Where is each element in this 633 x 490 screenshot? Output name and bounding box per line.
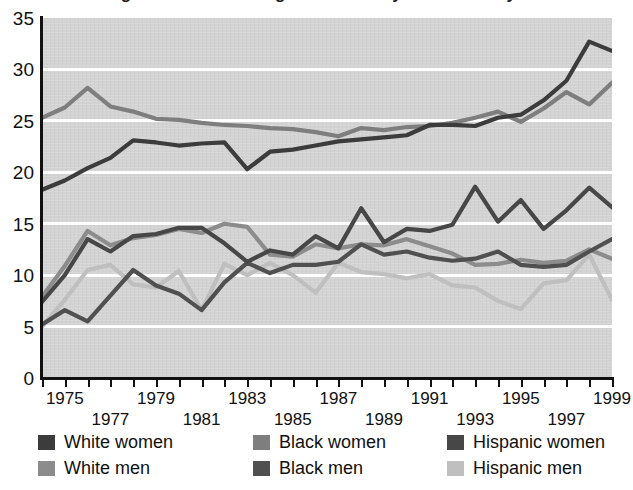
x-tick-1991	[430, 378, 432, 387]
swatch-black-women	[253, 435, 270, 450]
x-tick-1981	[202, 378, 204, 387]
legend-label-white-men: White men	[64, 459, 150, 477]
swatch-white-women	[38, 435, 55, 450]
y-tick-label-20: 20	[0, 163, 34, 182]
x-tick-label-1979: 1979	[137, 390, 175, 407]
legend-column-2: Black women Black men	[253, 430, 386, 482]
legend-column-1: White women White men	[38, 430, 173, 482]
x-tick-1999	[612, 378, 614, 387]
y-tick-label-15: 15	[0, 215, 34, 234]
line-chart: 05101520253035 1975197919831987199119951…	[0, 0, 633, 420]
x-tick-1978	[133, 378, 135, 387]
x-tick-1985	[293, 378, 295, 387]
x-tick-1993	[475, 378, 477, 387]
x-tick-1976	[88, 378, 90, 387]
x-tick-label-1989: 1989	[365, 411, 403, 428]
legend-label-black-men: Black men	[279, 459, 363, 477]
y-tick-label-5: 5	[0, 318, 34, 337]
x-tick-1996	[544, 378, 546, 387]
swatch-hispanic-women	[447, 435, 464, 450]
x-tick-label-1999: 1999	[593, 390, 631, 407]
legend-item-black-women: Black women	[253, 430, 386, 454]
legend-item-black-men: Black men	[253, 456, 386, 480]
legend-label-hispanic-men: Hispanic men	[473, 459, 582, 477]
x-tick-1980	[179, 378, 181, 387]
x-tick-label-1991: 1991	[411, 390, 449, 407]
x-tick-1977	[110, 378, 112, 387]
legend-column-3: Hispanic women Hispanic men	[447, 430, 605, 482]
x-tick-label-1985: 1985	[274, 411, 312, 428]
x-tick-1992	[452, 378, 454, 387]
x-tick-1998	[589, 378, 591, 387]
x-tick-label-1981: 1981	[183, 411, 221, 428]
swatch-black-men	[253, 461, 270, 476]
chart-legend: White women White men Black women Black …	[0, 430, 633, 486]
x-tick-1974	[42, 378, 44, 387]
legend-item-white-men: White men	[38, 456, 173, 480]
legend-item-white-women: White women	[38, 430, 173, 454]
y-tick-label-25: 25	[0, 112, 34, 131]
x-axis-line	[40, 377, 614, 380]
legend-label-white-women: White women	[64, 433, 173, 451]
series-line-hispanic-women	[42, 187, 612, 302]
x-tick-1994	[498, 378, 500, 387]
x-tick-label-1977: 1977	[91, 411, 129, 428]
y-tick-label-30: 30	[0, 60, 34, 79]
x-tick-label-1993: 1993	[456, 411, 494, 428]
x-tick-1986	[316, 378, 318, 387]
legend-item-hispanic-men: Hispanic men	[447, 456, 605, 480]
x-tick-label-1983: 1983	[228, 390, 266, 407]
x-tick-1989	[384, 378, 386, 387]
x-tick-label-1975: 1975	[46, 390, 84, 407]
x-tick-1988	[361, 378, 363, 387]
legend-label-hispanic-women: Hispanic women	[473, 433, 605, 451]
x-tick-1982	[224, 378, 226, 387]
series-line-white-men	[42, 224, 612, 297]
swatch-white-men	[38, 461, 55, 476]
x-tick-1983	[247, 378, 249, 387]
plot-area	[42, 18, 612, 378]
x-tick-1990	[407, 378, 409, 387]
chart-page: Percentage of bachelor's degree holders …	[0, 0, 633, 490]
x-tick-1995	[521, 378, 523, 387]
legend-label-black-women: Black women	[279, 433, 386, 451]
y-axis-line	[40, 16, 43, 380]
swatch-hispanic-men	[447, 461, 464, 476]
y-tick-label-35: 35	[0, 9, 34, 28]
x-tick-label-1987: 1987	[319, 390, 357, 407]
x-tick-1975	[65, 378, 67, 387]
x-tick-1979	[156, 378, 158, 387]
x-tick-1987	[338, 378, 340, 387]
series-line-white-women	[42, 42, 612, 190]
series-layer	[42, 18, 612, 378]
x-tick-label-1997: 1997	[547, 411, 585, 428]
legend-item-hispanic-women: Hispanic women	[447, 430, 605, 454]
x-tick-1997	[566, 378, 568, 387]
x-tick-label-1995: 1995	[502, 390, 540, 407]
x-tick-1984	[270, 378, 272, 387]
y-tick-label-0: 0	[0, 369, 34, 388]
y-tick-label-10: 10	[0, 266, 34, 285]
